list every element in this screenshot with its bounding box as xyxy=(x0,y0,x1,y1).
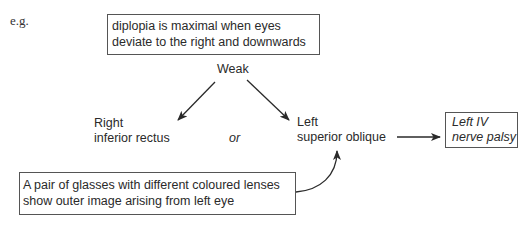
arrow-to-left-superior-oblique-icon xyxy=(247,80,289,120)
arrows-layer xyxy=(0,0,532,226)
arrow-to-right-inferior-rectus-icon xyxy=(178,82,215,120)
curved-arrow-from-glasses-test-icon xyxy=(296,151,337,192)
